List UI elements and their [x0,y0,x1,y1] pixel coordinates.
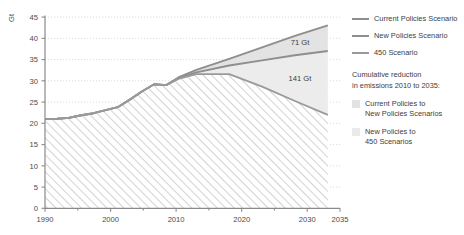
legend-area-label-new-to-450-line-1: New Policies to [365,127,416,137]
legend-item-current-policies[interactable]: Current Policies Scenario [352,10,464,27]
y-tick-label-20: 20 [30,119,38,128]
legend-area-label-new-to-450-line-2: 450 Scenarios [365,137,416,147]
legend-area-label-current-to-new: Current Policies to New Policies Scenari… [365,99,442,119]
legend-item-new-policies[interactable]: New Policies Scenario [352,27,464,44]
legend-area-label-current-to-new-line-1: Current Policies to [365,99,442,109]
legend-heading-line-2: in emissions 2010 to 2035: [352,81,464,92]
y-tick-label-0: 0 [34,204,38,213]
annotation-71gt: 71 Gt [291,38,310,47]
legend-area-label-current-to-new-line-2: New Policies Scenarios [365,109,442,119]
y-tick-label-30: 30 [30,77,38,86]
legend-heading-line-1: Cumulative reduction [352,70,464,81]
legend-area-label-new-to-450: New Policies to 450 Scenarios [365,127,416,147]
y-tick-label-40: 40 [30,34,38,43]
annotation-141gt: 141 Gt [289,74,313,83]
legend-area-swatch-current-to-new [352,100,360,108]
legend-section-heading: Cumulative reduction in emissions 2010 t… [352,70,464,91]
y-tick-label-25: 25 [30,98,38,107]
x-tick-label-2020: 2020 [233,215,250,224]
legend-line-swatch-450-scenario [352,52,369,54]
y-tick-label-10: 10 [30,162,38,171]
legend-label-450-scenario: 450 Scenario [374,48,418,58]
legend-label-new-policies: New Policies Scenario [374,31,448,41]
y-axis-unit-label: Gt [7,13,16,22]
legend-line-swatch-new-policies [352,35,369,37]
y-tick-label-15: 15 [30,140,38,149]
emissions-scenario-chart: 45 40 35 30 25 20 15 10 5 0 1990 2000 20… [0,0,464,235]
legend-area-swatch-new-to-450 [352,128,360,136]
legend-line-swatch-current-policies [352,18,369,20]
legend-item-band-current-to-new[interactable]: Current Policies to New Policies Scenari… [352,99,464,119]
x-tick-label-2035: 2035 [332,215,349,224]
x-tick-label-1990: 1990 [37,215,54,224]
y-tick-label-5: 5 [34,183,38,192]
legend-item-450-scenario[interactable]: 450 Scenario [352,44,464,61]
legend-item-band-new-to-450[interactable]: New Policies to 450 Scenarios [352,127,464,147]
x-tick-label-2010: 2010 [168,215,185,224]
y-tick-label-45: 45 [30,13,38,22]
x-tick-label-2000: 2000 [102,215,119,224]
y-tick-label-35: 35 [30,55,38,64]
x-tick-label-2030: 2030 [299,215,316,224]
chart-legend: Current Policies Scenario New Policies S… [352,10,464,147]
legend-label-current-policies: Current Policies Scenario [374,14,457,24]
